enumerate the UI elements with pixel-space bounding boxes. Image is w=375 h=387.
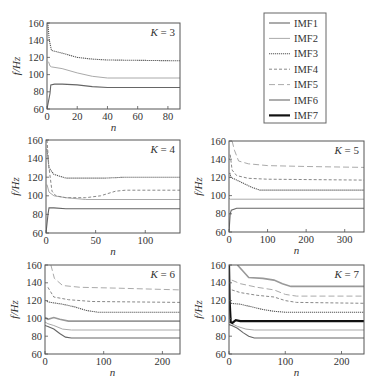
- x-axis-label: n: [294, 244, 300, 256]
- y-axis-label: f/Hz: [192, 300, 204, 319]
- panel-title: K = 3: [149, 26, 175, 38]
- x-tick-label: 200: [155, 356, 171, 367]
- panel-title: K = 5: [333, 144, 359, 156]
- x-tick-label: 0: [44, 111, 49, 122]
- panel-k3: 6080100120140160020406080nf/HzK = 3: [10, 18, 180, 134]
- panel-k4: 6080100120140160050100nf/HzK = 4: [9, 135, 180, 258]
- y-tick-label: 120: [28, 52, 44, 63]
- series-imf5: [232, 280, 364, 296]
- y-tick-label: 80: [216, 208, 227, 219]
- y-tick-label: 60: [216, 349, 227, 360]
- x-tick-label: 80: [163, 111, 174, 122]
- series-imf1: [229, 208, 364, 232]
- y-tick-label: 120: [27, 172, 43, 183]
- y-tick-label: 60: [32, 349, 43, 360]
- y-tick-label: 60: [33, 228, 44, 239]
- y-tick-label: 160: [210, 136, 226, 147]
- x-tick-label: 20: [72, 111, 83, 122]
- x-axis-label: n: [110, 366, 116, 378]
- x-tick-label: 0: [226, 356, 231, 367]
- y-tick-label: 120: [210, 295, 226, 306]
- y-axis-label: f/Hz: [192, 177, 204, 196]
- series-imf1: [45, 326, 180, 339]
- x-tick-label: 50: [90, 235, 101, 246]
- series-imf2: [229, 322, 364, 330]
- y-tick-label: 80: [32, 331, 43, 342]
- y-tick-label: 140: [28, 35, 44, 46]
- legend-label-imf3: IMF3: [294, 48, 318, 59]
- x-tick-label: 100: [260, 234, 276, 245]
- y-tick-label: 80: [34, 86, 45, 97]
- y-tick-label: 80: [33, 209, 44, 220]
- y-tick-label: 100: [27, 190, 43, 201]
- x-axis-label: n: [111, 121, 117, 133]
- x-axis-label: n: [294, 366, 300, 378]
- y-tick-label: 140: [27, 153, 43, 164]
- y-tick-label: 60: [34, 104, 45, 115]
- legend: IMF1IMF2IMF3IMF4IMF5IMF6IMF7: [264, 13, 326, 123]
- y-axis-label: f/Hz: [10, 56, 22, 75]
- y-axis-label: f/Hz: [9, 177, 21, 196]
- series-imf2: [45, 322, 180, 330]
- x-tick-label: 60: [132, 111, 143, 122]
- panel-title: K = 4: [149, 143, 175, 155]
- series-imf1: [47, 84, 180, 109]
- legend-label-imf1: IMF1: [294, 18, 318, 29]
- series-imf1: [46, 208, 180, 233]
- y-tick-label: 140: [26, 277, 42, 288]
- x-tick-label: 200: [334, 356, 350, 367]
- series-imf2: [229, 198, 364, 199]
- panel-title: K = 6: [149, 268, 175, 280]
- series-imf6: [45, 318, 180, 322]
- y-tick-label: 100: [28, 69, 44, 80]
- y-tick-label: 160: [26, 260, 42, 271]
- y-axis-label: f/Hz: [8, 300, 20, 319]
- y-tick-label: 140: [210, 277, 226, 288]
- series-imf3: [47, 302, 180, 313]
- series-imf3: [231, 303, 364, 312]
- y-tick-label: 160: [210, 260, 226, 271]
- x-tick-label: 100: [277, 356, 293, 367]
- legend-label-imf5: IMF5: [294, 79, 318, 90]
- legend-label-imf2: IMF2: [294, 33, 318, 44]
- y-tick-label: 80: [216, 331, 227, 342]
- legend-label-imf7: IMF7: [294, 110, 318, 121]
- figure: 6080100120140160020406080nf/HzK = 360801…: [0, 0, 375, 387]
- x-tick-label: 0: [42, 356, 47, 367]
- y-tick-label: 160: [28, 18, 44, 29]
- panel-title: K = 7: [333, 268, 359, 280]
- y-tick-label: 100: [26, 313, 42, 324]
- legend-label-imf4: IMF4: [294, 64, 319, 75]
- y-tick-label: 100: [210, 313, 226, 324]
- x-tick-label: 100: [137, 235, 153, 246]
- y-tick-label: 160: [27, 135, 43, 146]
- x-tick-label: 0: [43, 235, 48, 246]
- panel-k6: 60801001201401600100200nf/HzK = 6: [8, 260, 180, 379]
- y-tick-label: 140: [210, 154, 226, 165]
- series-imf3: [230, 173, 364, 190]
- x-tick-label: 300: [337, 234, 353, 245]
- y-tick-label: 120: [210, 172, 226, 183]
- panel-k7: 60801001201401600100200nf/HzK = 7: [192, 260, 364, 379]
- x-axis-label: n: [110, 245, 116, 257]
- y-tick-label: 60: [216, 227, 227, 238]
- y-tick-label: 120: [26, 295, 42, 306]
- x-tick-label: 0: [226, 234, 231, 245]
- legend-label-imf6: IMF6: [294, 95, 318, 106]
- panel-k5: 60801001201401600100200300nf/HzK = 5: [192, 136, 364, 257]
- series-imf1: [229, 325, 364, 338]
- series-imf2: [49, 62, 181, 78]
- x-tick-label: 200: [298, 234, 314, 245]
- y-tick-label: 100: [210, 190, 226, 201]
